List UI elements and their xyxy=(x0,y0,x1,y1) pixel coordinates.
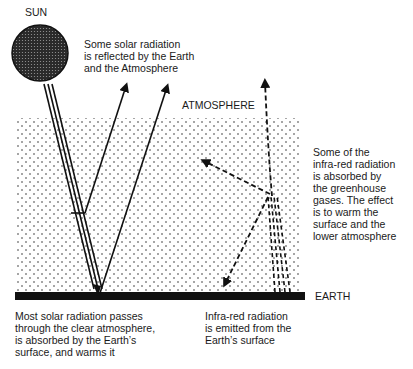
infrared-emitted-label: Infra-red radiation is emitted from the … xyxy=(205,310,291,346)
atmosphere-label: ATMOSPHERE xyxy=(182,99,255,111)
earth-surface xyxy=(15,292,305,300)
sun-label: SUN xyxy=(25,6,47,18)
absorbed-infrared-label: Some of the infra-red radiation is absor… xyxy=(313,146,396,242)
atmosphere-region xyxy=(15,118,300,292)
reflected-radiation-label: Some solar radiation is reflected by the… xyxy=(84,38,194,74)
solar-passes-label: Most solar radiation passes through the … xyxy=(15,310,155,358)
earth-label: EARTH xyxy=(315,290,350,302)
sun-icon xyxy=(12,25,68,81)
greenhouse-diagram: SUN Some solar radiation is reflected by… xyxy=(0,0,413,369)
